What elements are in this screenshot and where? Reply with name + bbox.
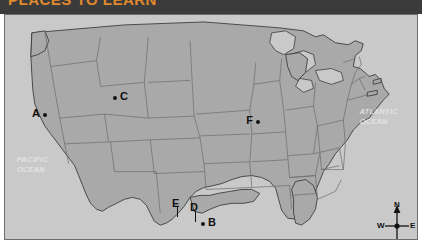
page-title: PLACES TO LEARN — [8, 0, 157, 8]
pacific-ocean-label: PACIFIC OCEAN — [17, 155, 48, 175]
pacific-ocean-line2: OCEAN — [17, 165, 48, 175]
map-point-d-label: D — [190, 202, 198, 213]
map-point-a-dot — [43, 113, 47, 117]
atlantic-ocean-line1: ATLANTIC — [360, 107, 398, 117]
us-map-graphic: .land { fill: #a9a9a9; stroke: #3d3d3d; … — [5, 15, 417, 239]
map-point-b-label: B — [208, 217, 216, 228]
map-point-a-label: A — [32, 108, 40, 119]
map-point-c-dot — [113, 96, 117, 100]
map-point-f-label: F — [246, 115, 253, 126]
map-point-e-label: E — [172, 198, 179, 209]
compass-east-label: E — [410, 222, 415, 230]
bottom-white-strip — [0, 240, 422, 249]
compass-north-label: N — [394, 201, 400, 209]
atlantic-ocean-label: ATLANTIC OCEAN — [360, 107, 398, 127]
us-map-figure[interactable]: .land { fill: #a9a9a9; stroke: #3d3d3d; … — [4, 14, 418, 240]
compass-west-label: W — [377, 222, 385, 230]
title-bar: PLACES TO LEARN — [0, 0, 422, 14]
map-page: PLACES TO LEARN .land { fill: #a9a9a9; s… — [0, 0, 422, 249]
compass-center-hub — [394, 223, 399, 228]
map-point-f-dot — [256, 120, 260, 124]
atlantic-ocean-line2: OCEAN — [360, 117, 398, 127]
compass-rose: N S W E — [377, 201, 417, 240]
pacific-ocean-line1: PACIFIC — [17, 155, 48, 165]
map-point-c-label: C — [120, 91, 128, 102]
map-point-b-dot — [201, 222, 205, 226]
